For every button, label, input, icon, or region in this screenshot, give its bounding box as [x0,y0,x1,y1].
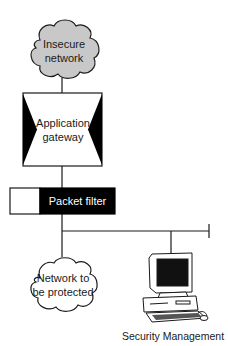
desktop-computer-icon [143,253,208,322]
security-management-label: Security Management [118,329,228,343]
insecure-network-label-line1: Insecure [36,37,92,51]
packet-filter-white-part [10,188,40,214]
application-gateway-label-line1: Application [30,116,96,130]
insecure-network-label: Insecure network [36,37,92,65]
application-gateway-label: Application gateway [30,116,96,144]
insecure-network-label-line2: network [36,51,92,65]
packet-filter-label: Packet filter [40,194,115,208]
protected-network-label-line1: Network to [30,271,96,285]
protected-network-label-line2: be protected [30,285,96,299]
protected-network-label: Network to be protected [30,271,96,299]
application-gateway-label-line2: gateway [30,130,96,144]
